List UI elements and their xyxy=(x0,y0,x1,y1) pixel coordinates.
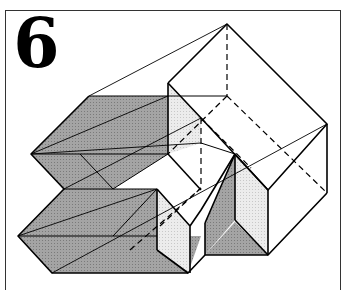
shaded-faces xyxy=(18,83,268,273)
